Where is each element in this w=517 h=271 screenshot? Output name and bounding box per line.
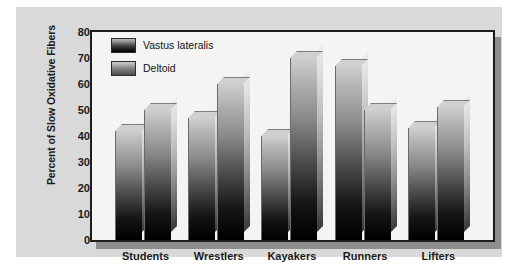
legend-item-deltoid: Deltoid bbox=[111, 58, 239, 78]
y-axis-tick-label: 60 bbox=[66, 78, 90, 90]
bar-front-face bbox=[408, 128, 435, 240]
legend-item-vastus-lateralis: Vastus lateralis bbox=[111, 35, 239, 55]
x-axis-label-students: Students bbox=[122, 250, 169, 262]
x-axis-label-runners: Runners bbox=[343, 250, 388, 262]
bar-side-face bbox=[463, 93, 470, 233]
x-axis-label-kayakers: Kayakers bbox=[267, 250, 316, 262]
x-axis-label-lifters: Lifters bbox=[421, 250, 455, 262]
bar-side-face bbox=[243, 70, 250, 233]
legend: Vastus lateralisDeltoid bbox=[111, 35, 239, 81]
y-axis-tick-label: 0 bbox=[66, 234, 90, 246]
bar-front-face bbox=[364, 110, 391, 240]
bar-front-face bbox=[437, 107, 464, 240]
y-axis-tick-label: 50 bbox=[66, 104, 90, 116]
y-axis-title: Percent of Slow Oxidative Fibers bbox=[45, 0, 57, 220]
legend-label: Deltoid bbox=[143, 62, 176, 74]
bar-wrestlers-vastus-lateralis bbox=[188, 118, 214, 240]
bar-front-face bbox=[335, 66, 362, 240]
bar-side-face bbox=[390, 96, 397, 233]
bar-side-face bbox=[316, 44, 323, 233]
bar-wrestlers-deltoid bbox=[217, 84, 243, 240]
y-axis-tick-label: 70 bbox=[66, 52, 90, 64]
bar-front-face bbox=[261, 136, 288, 240]
y-axis-tick-label: 30 bbox=[66, 156, 90, 168]
bar-kayakers-deltoid bbox=[290, 58, 316, 240]
bar-students-deltoid bbox=[144, 110, 170, 240]
y-axis-tick-label: 80 bbox=[66, 26, 90, 38]
bar-students-vastus-lateralis bbox=[115, 131, 141, 240]
bar-kayakers-vastus-lateralis bbox=[261, 136, 287, 240]
chart-card: Percent of Slow Oxidative Fibers 8070605… bbox=[16, 7, 502, 257]
bar-front-face bbox=[217, 84, 244, 240]
bar-front-face bbox=[144, 110, 171, 240]
bar-lifters-vastus-lateralis bbox=[408, 128, 434, 240]
x-axis-labels: StudentsWrestlersKayakersRunnersLifters bbox=[90, 250, 502, 270]
bar-front-face bbox=[290, 58, 317, 240]
bar-front-face bbox=[115, 131, 142, 240]
bar-runners-vastus-lateralis bbox=[335, 66, 361, 240]
bar-lifters-deltoid bbox=[437, 107, 463, 240]
y-axis-tick-labels: 80706050403020100 bbox=[64, 30, 90, 242]
y-axis-tick-label: 10 bbox=[66, 208, 90, 220]
y-axis-tick-label: 20 bbox=[66, 182, 90, 194]
bar-front-face bbox=[188, 118, 215, 240]
bar-side-face bbox=[170, 96, 177, 233]
legend-swatch bbox=[111, 61, 136, 76]
y-axis-tick-label: 40 bbox=[66, 130, 90, 142]
legend-label: Vastus lateralis bbox=[143, 39, 213, 51]
figure-container: Percent of Slow Oxidative Fibers 8070605… bbox=[0, 0, 517, 271]
bar-runners-deltoid bbox=[364, 110, 390, 240]
x-axis-label-wrestlers: Wrestlers bbox=[194, 250, 244, 262]
legend-swatch bbox=[111, 38, 136, 53]
